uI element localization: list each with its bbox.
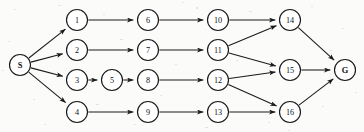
graph-node-5[interactable]: 5 xyxy=(102,70,123,91)
node-label-G: G xyxy=(342,66,349,75)
graph-edge-14-to-G xyxy=(298,28,334,61)
graph-node-13[interactable]: 13 xyxy=(208,102,229,123)
node-label-10: 10 xyxy=(214,16,222,25)
node-label-3: 3 xyxy=(75,76,79,85)
node-layer: S12345678910111213141516G xyxy=(10,10,356,123)
node-label-15: 15 xyxy=(286,66,294,75)
node-label-13: 13 xyxy=(214,108,222,117)
graph-node-16[interactable]: 16 xyxy=(280,102,301,123)
node-label-2: 2 xyxy=(75,46,79,55)
graph-node-9[interactable]: 9 xyxy=(138,102,159,123)
graph-edge-16-to-G xyxy=(299,79,333,105)
graph-node-7[interactable]: 7 xyxy=(138,40,159,61)
graph-node-11[interactable]: 11 xyxy=(208,40,229,61)
node-label-5: 5 xyxy=(110,76,114,85)
graph-edge-11-to-14 xyxy=(228,26,276,46)
node-label-9: 9 xyxy=(146,108,150,117)
graph-canvas: S12345678910111213141516G xyxy=(0,0,364,132)
graph-node-6[interactable]: 6 xyxy=(138,10,159,31)
node-label-6: 6 xyxy=(146,16,150,25)
graph-node-15[interactable]: 15 xyxy=(280,60,301,81)
node-label-8: 8 xyxy=(146,76,150,85)
graph-node-10[interactable]: 10 xyxy=(208,10,229,31)
graph-node-1[interactable]: 1 xyxy=(67,10,88,31)
graph-edge-S-to-4 xyxy=(29,72,66,102)
graph-edge-S-to-3 xyxy=(31,68,63,76)
node-label-16: 16 xyxy=(286,108,294,117)
node-label-11: 11 xyxy=(214,46,222,55)
graph-node-4[interactable]: 4 xyxy=(67,102,88,123)
graph-edge-12-to-15 xyxy=(229,72,275,78)
graph-node-2[interactable]: 2 xyxy=(67,40,88,61)
node-label-4: 4 xyxy=(75,108,79,117)
graph-edge-S-to-2 xyxy=(31,54,63,62)
directed-graph-figure: S12345678910111213141516G xyxy=(0,0,364,132)
node-label-14: 14 xyxy=(286,16,294,25)
node-label-S: S xyxy=(18,61,23,70)
graph-edge-12-to-16 xyxy=(228,85,276,106)
node-label-1: 1 xyxy=(75,16,79,25)
node-label-7: 7 xyxy=(146,46,150,55)
graph-edge-11-to-15 xyxy=(229,53,276,66)
graph-node-8[interactable]: 8 xyxy=(138,70,159,91)
node-label-12: 12 xyxy=(214,76,222,85)
graph-node-S[interactable]: S xyxy=(10,55,31,76)
graph-node-3[interactable]: 3 xyxy=(67,70,88,91)
graph-node-14[interactable]: 14 xyxy=(280,10,301,31)
graph-node-G[interactable]: G xyxy=(335,60,356,81)
graph-edge-S-to-1 xyxy=(29,29,66,58)
graph-node-12[interactable]: 12 xyxy=(208,70,229,91)
